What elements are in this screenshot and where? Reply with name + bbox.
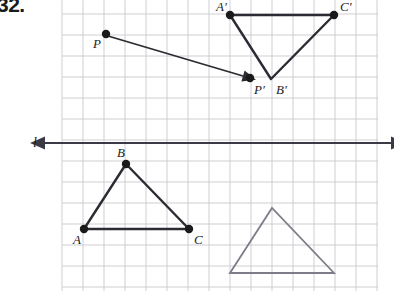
point-label-B: B: [117, 145, 125, 160]
point-dot-B: [122, 160, 130, 168]
point-dot-A-prime: [226, 11, 234, 19]
geometry-canvas: l ABCPA′B′C′P′: [0, 0, 394, 291]
triangle-a-prime-b-prime-c-prime: [230, 15, 334, 79]
point-dot-P-prime: [246, 74, 254, 82]
triangle-abc: [84, 164, 189, 229]
point-label-A: A: [72, 232, 81, 247]
mirror-line-group: l: [33, 135, 391, 150]
triangle-gray-outline-group: [230, 208, 334, 273]
point-label-C-prime: C′: [340, 0, 352, 14]
point-dot-C: [185, 225, 193, 233]
triangle-gray-outline: [230, 208, 334, 273]
point-label-P-prime: P′: [253, 82, 265, 97]
geometry-figure: 32. l ABC: [0, 0, 394, 291]
point-label-B-prime: B′: [276, 82, 287, 97]
graph-grid: [62, 0, 378, 291]
point-label-P: P: [92, 36, 101, 51]
triangle-a-prime-group: [230, 15, 334, 79]
point-label-C: C: [194, 232, 203, 247]
point-label-A-prime: A′: [215, 0, 227, 14]
point-dot-A: [80, 225, 88, 233]
point-dot-P: [102, 30, 110, 38]
point-dot-C-prime: [330, 11, 338, 19]
mirror-line-label: l: [33, 135, 37, 150]
triangle-abc-group: [84, 164, 189, 229]
